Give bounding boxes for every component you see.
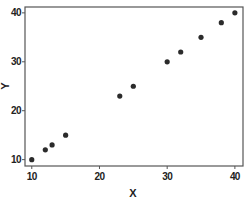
y-tick-label: 40 (11, 7, 22, 18)
x-tick-label: 20 (95, 171, 106, 182)
data-point (117, 93, 122, 98)
x-tick-label: 10 (27, 171, 38, 182)
y-axis: 10203040 (11, 7, 25, 165)
data-point (178, 49, 183, 54)
x-axis: 10203040 (27, 166, 241, 182)
scatter-chart: 10203040 10203040 X Y (0, 0, 250, 208)
data-point (29, 157, 34, 162)
data-point (165, 59, 170, 64)
data-point (232, 10, 237, 15)
x-tick-label: 40 (230, 171, 241, 182)
data-point (131, 84, 136, 89)
data-point (198, 35, 203, 40)
data-point (43, 147, 48, 152)
y-tick-label: 20 (11, 105, 22, 116)
y-tick-label: 10 (11, 154, 22, 165)
y-tick-label: 30 (11, 56, 22, 67)
x-tick-label: 30 (162, 171, 173, 182)
x-axis-label: X (129, 187, 137, 199)
data-points (29, 10, 237, 162)
data-point (219, 20, 224, 25)
data-point (49, 142, 54, 147)
y-axis-label: Y (0, 82, 11, 90)
data-point (63, 133, 68, 138)
